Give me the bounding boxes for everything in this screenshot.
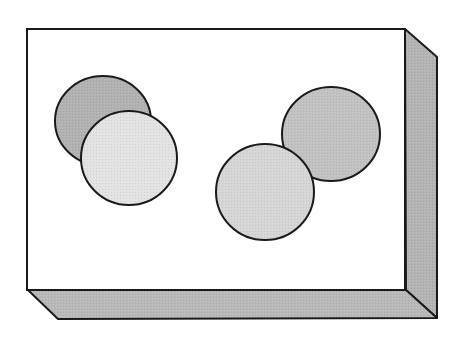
box-with-circles-diagram (0, 0, 462, 337)
diagram-canvas (0, 0, 462, 337)
box-right-side-texture (405, 29, 437, 318)
left-front-circle-texture (82, 112, 176, 204)
right-front-circle-texture (217, 145, 313, 239)
box-bottom-texture (28, 290, 437, 319)
